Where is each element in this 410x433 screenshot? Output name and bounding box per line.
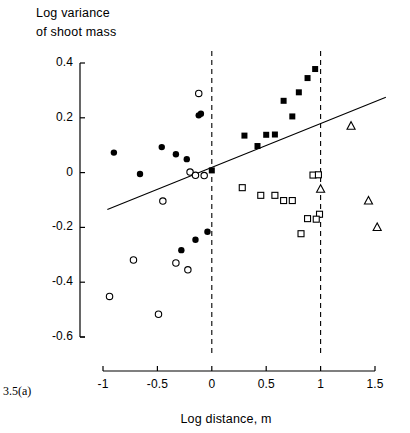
- data-point-filled-circle: [198, 110, 204, 116]
- data-point-filled-square: [312, 66, 318, 72]
- data-point-open-square: [313, 216, 319, 222]
- x-axis-tick-label: 1: [301, 377, 341, 391]
- data-point-filled-circle: [192, 237, 198, 243]
- x-axis-tick-label: 0: [192, 377, 232, 391]
- figure-container: Log variance of shoot mass 3.5(a) Log di…: [0, 0, 410, 433]
- y-axis-tick-label: -0.2: [33, 219, 73, 233]
- y-axis-tick-label: -0.6: [33, 329, 73, 343]
- data-point-filled-square: [241, 133, 247, 139]
- data-point-open-square: [272, 192, 278, 198]
- data-point-filled-square: [254, 143, 260, 149]
- data-point-open-circle: [201, 172, 207, 178]
- data-point-open-triangle: [373, 223, 381, 231]
- series-open-square: [239, 172, 322, 237]
- data-point-filled-square: [281, 98, 287, 104]
- data-point-open-square: [258, 192, 264, 198]
- data-point-open-square: [305, 216, 311, 222]
- series-open-triangle: [317, 122, 382, 231]
- regression-line: [107, 97, 386, 209]
- data-point-filled-square: [209, 167, 215, 173]
- data-point-open-square: [289, 198, 295, 204]
- data-point-filled-square: [296, 89, 302, 95]
- data-point-filled-circle: [137, 171, 143, 177]
- data-point-open-triangle: [317, 185, 325, 193]
- data-point-open-circle: [155, 311, 161, 317]
- x-axis-tick-label: 1.5: [355, 377, 395, 391]
- data-point-filled-square: [263, 132, 269, 138]
- data-point-filled-circle: [111, 149, 117, 155]
- data-point-open-triangle: [347, 122, 355, 130]
- data-point-open-square: [281, 198, 287, 204]
- series-filled-square: [209, 66, 318, 173]
- data-point-open-square: [239, 185, 245, 191]
- data-point-open-circle: [160, 198, 166, 204]
- data-point-filled-circle: [178, 247, 184, 253]
- data-point-filled-square: [289, 113, 295, 119]
- y-axis-tick-label: 0.4: [33, 55, 73, 69]
- y-axis-tick-label: 0.2: [33, 110, 73, 124]
- x-axis-tick-label: 0.5: [246, 377, 286, 391]
- data-point-open-circle: [196, 90, 202, 96]
- data-point-open-square: [315, 172, 321, 178]
- data-point-open-circle: [192, 172, 198, 178]
- data-point-filled-circle: [173, 151, 179, 157]
- series-filled-circle: [111, 110, 211, 253]
- y-axis-tick-label: 0: [33, 165, 73, 179]
- data-point-open-circle: [130, 257, 136, 263]
- data-point-filled-square: [272, 132, 278, 138]
- data-point-filled-circle: [184, 156, 190, 162]
- data-point-filled-circle: [204, 229, 210, 235]
- data-point-open-circle: [173, 260, 179, 266]
- data-point-filled-circle: [159, 144, 165, 150]
- x-axis-tick-label: -1: [83, 377, 123, 391]
- x-axis-tick-label: -0.5: [137, 377, 177, 391]
- y-axis-tick-label: -0.4: [33, 274, 73, 288]
- data-point-open-circle: [185, 267, 191, 273]
- data-point-filled-square: [305, 75, 311, 81]
- data-point-open-triangle: [364, 196, 372, 204]
- data-point-open-circle: [106, 293, 112, 299]
- data-point-open-square: [298, 231, 304, 237]
